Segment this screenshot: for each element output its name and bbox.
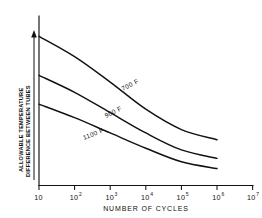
curve-label-900f: 900 F xyxy=(103,105,123,119)
x-tick-label-text: 10 xyxy=(70,193,79,202)
chart-figure: ALLOWABLE TEMPERATURE DIFFERENCE BETWEEN… xyxy=(0,0,262,218)
x-tick-label-1e2: 10 2 xyxy=(70,191,82,202)
x-tick-label-text: 10 xyxy=(141,193,150,202)
x-tick-label-exponent: 3 xyxy=(115,191,118,197)
x-tick-label-text: 10 xyxy=(247,193,256,202)
y-axis-label-group: ALLOWABLE TEMPERATURE DIFFERENCE BETWEEN… xyxy=(18,85,31,177)
curve-label-700f: 700 F xyxy=(120,77,139,92)
x-tick-label-exponent: 5 xyxy=(186,191,189,197)
x-tick-label-1e3: 10 3 xyxy=(105,191,117,202)
chart-canvas: ALLOWABLE TEMPERATURE DIFFERENCE BETWEEN… xyxy=(0,0,262,218)
x-axis-title: NUMBER OF CYCLES xyxy=(103,205,189,212)
data-curves-group xyxy=(39,36,217,168)
y-axis-direction-arrow xyxy=(31,30,37,180)
y-axis-label-line1: ALLOWABLE TEMPERATURE xyxy=(18,88,24,172)
x-tick-label-text: 10 xyxy=(177,193,186,202)
x-tick-label-10: 10 xyxy=(34,193,43,202)
curve-labels-group: 700 F 900 F 1100 F xyxy=(82,77,140,141)
x-tick-label-exponent: 2 xyxy=(79,191,82,197)
x-tick-label-1e4: 10 4 xyxy=(141,191,153,202)
x-tick-label-exponent: 4 xyxy=(150,191,153,197)
x-axis-tick-labels: 10 10 2 10 3 10 4 10 5 10 6 xyxy=(34,191,259,202)
x-tick-label-exponent: 6 xyxy=(221,191,224,197)
y-axis-label-line2: DIFFERENCE BETWEEN TUBES xyxy=(25,85,31,177)
x-tick-label-text: 10 xyxy=(34,193,43,202)
axes-group xyxy=(39,16,253,186)
x-tick-label-1e6: 10 6 xyxy=(212,191,224,202)
x-tick-label-1e5: 10 5 xyxy=(177,191,189,202)
curve-1100f xyxy=(39,104,217,168)
x-tick-label-exponent: 7 xyxy=(256,191,259,197)
curve-label-1100f: 1100 F xyxy=(82,126,105,141)
x-tick-label-1e7: 10 7 xyxy=(247,191,259,202)
x-tick-label-text: 10 xyxy=(212,193,221,202)
x-axis-ticks xyxy=(39,186,253,191)
x-tick-label-text: 10 xyxy=(105,193,114,202)
